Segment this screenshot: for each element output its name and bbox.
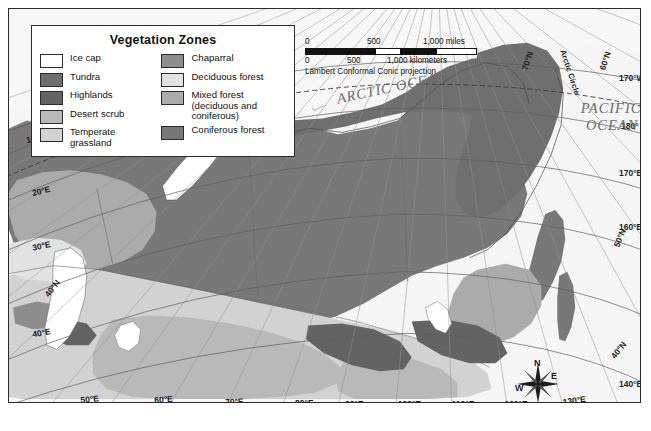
- legend-item[interactable]: Coniferous forest: [161, 125, 286, 140]
- scale-bar-fill-a: [306, 49, 376, 54]
- graticule-label: 50°E: [80, 393, 100, 402]
- graticule-label: 140°E: [619, 379, 640, 389]
- legend-swatch: [40, 91, 63, 105]
- legend-swatch: [40, 128, 63, 142]
- legend-item[interactable]: Ice cap: [40, 53, 155, 68]
- map-figure: 10°E20°E30°E40°E40°N50°E60°E70°E80°E90°E…: [0, 0, 651, 431]
- scale-bar: 0 500 1,000 miles 0 500 1,000 kilometers…: [305, 37, 477, 76]
- legend-swatch: [161, 54, 184, 68]
- graticule-label: 40°E: [32, 326, 52, 339]
- legend-item-label: Deciduous forest: [191, 72, 263, 83]
- scale-km-500: 500: [347, 56, 361, 65]
- map-legend: Vegetation Zones Ice capTundraHighlandsD…: [31, 25, 295, 157]
- legend-item-label: Chaparral: [191, 53, 233, 64]
- pacific-ocean-line2-label: OCEAN: [586, 117, 639, 133]
- compass-label-w: W: [515, 383, 524, 393]
- legend-item-label: Tundra: [70, 72, 100, 83]
- scale-miles-0: 0: [305, 37, 310, 46]
- legend-item-label: Mixed forest (deciduous and coniferous): [191, 90, 286, 122]
- legend-item[interactable]: Temperate grassland: [40, 127, 155, 148]
- compass-label-s: S: [535, 401, 541, 403]
- graticule-label: 40°N: [609, 339, 629, 360]
- legend-item[interactable]: Highlands: [40, 90, 155, 105]
- graticule-label: 60°N: [597, 50, 612, 71]
- compass-label-e: E: [551, 371, 557, 381]
- graticule-label: 170°W: [619, 73, 640, 83]
- scale-km-ticks: 0 500 1,000 kilometers: [305, 56, 477, 66]
- graticule-label: 80°E: [295, 398, 314, 402]
- legend-column-left: Ice capTundraHighlandsDesert scrubTemper…: [40, 53, 155, 148]
- graticule-label: 70°N: [520, 50, 535, 71]
- legend-item-label: Coniferous forest: [191, 125, 264, 136]
- graticule-label: 50°N: [612, 227, 628, 248]
- legend-item-label: Desert scrub: [70, 109, 124, 120]
- graticule-label: 170°E: [619, 168, 640, 178]
- legend-item-label: Ice cap: [70, 53, 101, 64]
- legend-item[interactable]: Desert scrub: [40, 109, 155, 124]
- graticule-label: 100°E: [398, 399, 422, 402]
- scale-miles-500: 500: [367, 37, 381, 46]
- graticule-label: 60°E: [154, 394, 173, 402]
- legend-title: Vegetation Zones: [40, 33, 286, 47]
- legend-swatch: [161, 91, 184, 105]
- graticule-label: 40°N: [43, 278, 63, 299]
- legend-swatch: [40, 54, 63, 68]
- pacific-ocean-line1-label: PACIFIC: [580, 100, 640, 116]
- graticule-label: 70°E: [225, 396, 244, 402]
- legend-swatch: [40, 110, 63, 124]
- legend-item[interactable]: Deciduous forest: [161, 72, 286, 87]
- legend-item-label: Highlands: [70, 90, 113, 101]
- map-canvas[interactable]: 10°E20°E30°E40°E40°N50°E60°E70°E80°E90°E…: [8, 8, 641, 403]
- legend-item-label: Temperate grassland: [70, 127, 155, 148]
- scale-km-1000: 1,000 kilometers: [387, 56, 447, 65]
- legend-swatch: [40, 73, 63, 87]
- scale-miles-1000: 1,000 miles: [423, 37, 465, 46]
- scale-miles-ticks: 0 500 1,000 miles: [305, 37, 477, 47]
- graticule-label: 110°E: [452, 399, 475, 402]
- legend-item[interactable]: Tundra: [40, 72, 155, 87]
- graticule-label: 90°E: [345, 399, 364, 402]
- compass-label-n: N: [534, 358, 541, 368]
- compass-rose: N E S W: [507, 357, 569, 403]
- scale-km-0: 0: [305, 56, 310, 65]
- graticule-label: 20°E: [31, 184, 52, 198]
- scale-bar-graphic: [305, 48, 477, 55]
- legend-column-right: ChaparralDeciduous forestMixed forest (d…: [161, 53, 286, 148]
- arctic-circle-label: Arctic Circle: [558, 49, 581, 97]
- legend-swatch: [161, 73, 184, 87]
- graticule-label: 30°E: [31, 239, 51, 253]
- legend-item[interactable]: Mixed forest (deciduous and coniferous): [161, 90, 286, 122]
- scale-bar-fill-b: [400, 49, 437, 54]
- projection-note: Lambert Conformal Conic projection: [305, 67, 477, 76]
- legend-swatch: [161, 126, 184, 140]
- legend-item[interactable]: Chaparral: [161, 53, 286, 68]
